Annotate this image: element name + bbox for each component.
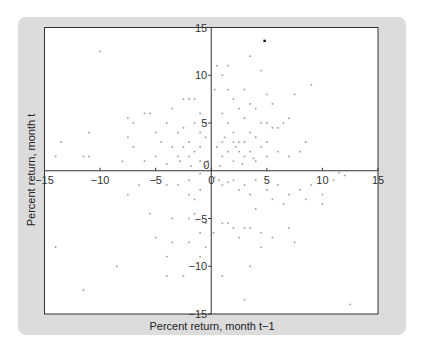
data-point xyxy=(288,156,290,158)
data-point xyxy=(122,160,124,162)
data-point xyxy=(299,189,301,191)
data-point xyxy=(349,304,351,306)
data-point xyxy=(179,160,181,162)
data-point xyxy=(177,156,179,158)
data-point xyxy=(190,165,192,167)
data-point xyxy=(99,51,101,53)
data-point xyxy=(83,156,85,158)
data-point xyxy=(299,151,301,153)
data-point xyxy=(83,289,85,291)
x-tick-label: 0 xyxy=(208,174,214,186)
data-point xyxy=(255,180,257,182)
data-point xyxy=(227,65,229,67)
data-point xyxy=(249,194,251,196)
data-point xyxy=(183,98,185,100)
data-point xyxy=(127,194,129,196)
data-point xyxy=(213,232,215,234)
data-point xyxy=(127,137,129,139)
data-point xyxy=(205,137,207,139)
data-point xyxy=(199,173,201,175)
data-point xyxy=(166,163,168,165)
data-point xyxy=(227,151,229,153)
data-point xyxy=(333,180,335,182)
x-axis-title: Percent return, month t−1 xyxy=(149,320,274,332)
data-point xyxy=(311,84,313,86)
data-point xyxy=(249,103,251,105)
data-point xyxy=(266,122,268,124)
data-point xyxy=(166,184,168,186)
y-tick-label: 0 xyxy=(203,159,209,171)
data-point xyxy=(249,132,251,134)
data-point xyxy=(138,184,140,186)
data-point xyxy=(183,127,185,129)
data-point xyxy=(188,98,190,100)
data-point xyxy=(233,160,235,162)
data-point xyxy=(260,122,262,124)
data-point xyxy=(218,180,220,182)
data-point xyxy=(244,227,246,229)
data-point xyxy=(222,184,224,186)
data-point xyxy=(249,265,251,267)
x-tick-label: 15 xyxy=(372,174,384,186)
x-tick-label: −15 xyxy=(35,174,54,186)
data-point xyxy=(188,242,190,244)
data-point xyxy=(249,55,251,57)
data-point xyxy=(199,146,201,148)
data-point xyxy=(216,65,218,67)
data-point xyxy=(283,122,285,124)
data-point xyxy=(188,194,190,196)
data-point xyxy=(177,132,179,134)
data-point xyxy=(127,117,129,119)
data-point xyxy=(166,275,168,277)
data-point xyxy=(272,103,274,105)
data-point xyxy=(194,122,196,124)
data-point xyxy=(277,184,279,186)
data-point xyxy=(216,146,218,148)
x-tick-label: −10 xyxy=(91,174,110,186)
data-point xyxy=(155,132,157,134)
data-point xyxy=(260,70,262,72)
data-point xyxy=(219,165,221,167)
data-point xyxy=(55,156,57,158)
data-point xyxy=(222,113,224,115)
data-point xyxy=(244,141,246,143)
data-point xyxy=(244,89,246,91)
x-tick-label: 10 xyxy=(316,174,328,186)
data-point xyxy=(224,137,226,139)
data-point xyxy=(238,189,240,191)
data-point xyxy=(227,89,229,91)
data-point xyxy=(266,94,268,96)
data-point xyxy=(233,98,235,100)
data-point xyxy=(253,158,255,160)
y-tick-label: 15 xyxy=(195,22,207,34)
data-point xyxy=(227,122,229,124)
data-point xyxy=(238,141,240,143)
data-point xyxy=(255,137,257,139)
data-point xyxy=(294,94,296,96)
data-point xyxy=(288,194,290,196)
data-point xyxy=(194,199,196,201)
data-point xyxy=(305,199,307,201)
data-point xyxy=(222,141,224,143)
y-tick-label: −10 xyxy=(189,260,208,272)
data-point xyxy=(199,113,201,115)
data-point xyxy=(133,122,135,124)
data-point xyxy=(260,232,262,234)
data-point xyxy=(199,232,201,234)
data-point xyxy=(88,132,90,134)
data-point xyxy=(222,156,224,158)
data-point xyxy=(183,146,185,148)
data-point xyxy=(172,146,174,148)
data-point xyxy=(344,175,346,177)
data-point xyxy=(244,299,246,301)
data-point xyxy=(235,146,237,148)
data-point xyxy=(188,156,190,158)
data-point xyxy=(199,132,201,134)
data-point xyxy=(149,113,151,115)
data-point xyxy=(227,181,229,183)
data-point xyxy=(144,160,146,162)
data-point xyxy=(60,141,62,143)
x-tick-label: 5 xyxy=(264,174,270,186)
data-point xyxy=(133,146,135,148)
data-point xyxy=(244,156,246,158)
